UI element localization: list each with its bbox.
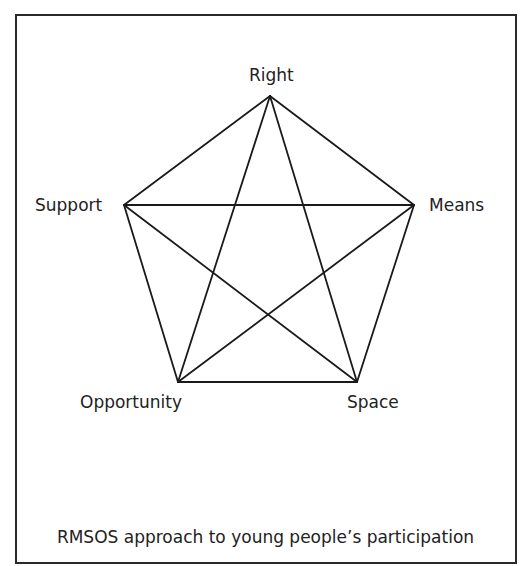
node-label-space: Space bbox=[347, 394, 399, 411]
edge-support-right bbox=[124, 96, 270, 205]
node-label-means: Means bbox=[429, 197, 484, 214]
diagram-caption: RMSOS approach to young people’s partici… bbox=[0, 527, 531, 547]
edge-means-opportunity bbox=[178, 205, 414, 382]
edge-opportunity-support bbox=[124, 205, 178, 382]
edge-right-space bbox=[270, 96, 357, 382]
edge-right-opportunity bbox=[178, 96, 270, 382]
node-label-opportunity: Opportunity bbox=[80, 394, 182, 411]
node-label-right: Right bbox=[249, 67, 294, 84]
node-label-support: Support bbox=[35, 197, 102, 214]
edge-support-space bbox=[124, 205, 357, 382]
edge-means-space bbox=[357, 205, 414, 382]
edge-right-means bbox=[270, 96, 414, 205]
